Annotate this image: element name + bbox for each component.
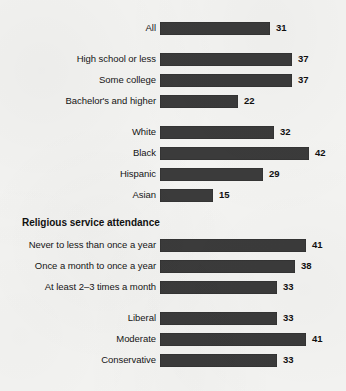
bar-value-7: 15 — [219, 188, 230, 202]
chart-row: Moderate41 — [0, 332, 346, 346]
bar-value-12: 41 — [312, 332, 323, 346]
bar-value-5: 42 — [315, 146, 326, 160]
bar-9 — [160, 260, 295, 273]
bar-chart-plot: All31High school or less37Some college37… — [0, 0, 346, 391]
bar-label-11: Liberal — [0, 311, 156, 325]
bar-7 — [160, 189, 213, 202]
bar-label-8: Never to less than once a year — [0, 238, 156, 252]
chart-row: Asian15 — [0, 188, 346, 202]
bar-10 — [160, 281, 277, 294]
bar-value-4: 32 — [280, 125, 291, 139]
group-header-3: Religious service attendance — [22, 216, 160, 230]
bar-value-6: 29 — [269, 167, 280, 181]
bar-13 — [160, 354, 277, 367]
bar-5 — [160, 147, 309, 160]
bar-label-5: Black — [0, 146, 156, 160]
bar-0 — [160, 22, 270, 35]
chart-row: White32 — [0, 125, 346, 139]
chart-row: Never to less than once a year41 — [0, 238, 346, 252]
chart-row: Liberal33 — [0, 311, 346, 325]
bar-4 — [160, 126, 274, 139]
bar-6 — [160, 168, 263, 181]
bar-8 — [160, 239, 306, 252]
bar-3 — [160, 95, 238, 108]
chart-row: Once a month to once a year38 — [0, 259, 346, 273]
chart-row: Bachelor's and higher22 — [0, 94, 346, 108]
bar-value-3: 22 — [244, 94, 255, 108]
bar-label-1: High school or less — [0, 52, 156, 66]
bar-value-8: 41 — [312, 238, 323, 252]
bar-value-11: 33 — [283, 311, 294, 325]
bar-label-12: Moderate — [0, 332, 156, 346]
chart-row: Hispanic29 — [0, 167, 346, 181]
bar-label-6: Hispanic — [0, 167, 156, 181]
bar-1 — [160, 53, 292, 66]
bar-11 — [160, 312, 277, 325]
bar-12 — [160, 333, 306, 346]
bar-value-2: 37 — [298, 73, 309, 87]
bar-label-2: Some college — [0, 73, 156, 87]
bar-value-13: 33 — [283, 353, 294, 367]
chart-row: All31 — [0, 21, 346, 35]
bar-label-9: Once a month to once a year — [0, 259, 156, 273]
bar-value-0: 31 — [276, 21, 287, 35]
bar-value-10: 33 — [283, 280, 294, 294]
chart-row: Some college37 — [0, 73, 346, 87]
bar-label-4: White — [0, 125, 156, 139]
bar-label-3: Bachelor's and higher — [0, 94, 156, 108]
bar-value-9: 38 — [301, 259, 312, 273]
bar-label-0: All — [0, 21, 156, 35]
bar-label-7: Asian — [0, 188, 156, 202]
bar-label-13: Conservative — [0, 353, 156, 367]
chart-row: High school or less37 — [0, 52, 346, 66]
chart-row: Black42 — [0, 146, 346, 160]
bar-label-10: At least 2–3 times a month — [0, 280, 156, 294]
bar-2 — [160, 74, 292, 87]
bar-value-1: 37 — [298, 52, 309, 66]
chart-row: At least 2–3 times a month33 — [0, 280, 346, 294]
chart-row: Conservative33 — [0, 353, 346, 367]
